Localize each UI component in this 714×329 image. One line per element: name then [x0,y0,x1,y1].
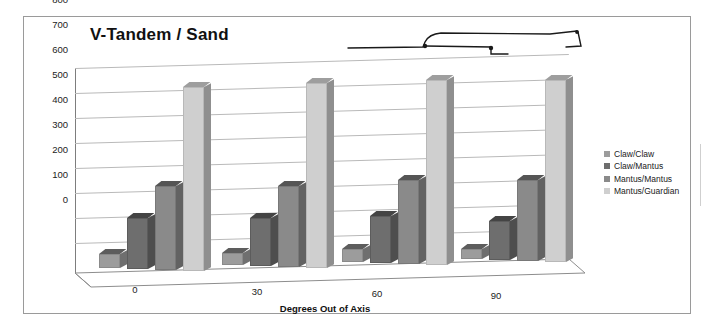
bar-front-face [222,253,243,265]
bar-side-face [299,182,306,267]
chart-legend: Claw/Claw Claw/Mantus Mantus/Mantus Mant… [604,148,694,198]
legend-swatch-icon [604,163,610,169]
bar-claw-claw-60[interactable] [342,249,363,262]
legend-swatch-icon [604,188,610,194]
bar-front-face [517,180,538,261]
bar-front-face [99,254,120,268]
bar-claw-claw-30[interactable] [222,253,243,265]
bar-side-face [391,212,398,263]
x-tick-0: 0 [115,284,155,295]
bar-front-face [398,180,419,264]
bar-side-face [327,79,334,268]
bar-side-face [176,182,183,270]
bar-front-face [489,221,510,260]
bar-front-face [426,80,447,265]
bar-side-face [148,214,155,269]
bar-front-face [370,216,391,263]
y-tick-400: 400 [34,95,68,105]
x-tick-60: 60 [357,288,397,299]
bar-side-face [204,83,211,271]
legend-swatch-icon [604,151,610,157]
bar-side-face [447,76,454,265]
bar-front-face [250,218,271,266]
bar-mantus-mantus-60[interactable] [398,180,419,264]
x-tick-30: 30 [237,286,277,297]
bar-claw-mantus-90[interactable] [489,221,510,260]
legend-label-mantus-mantus: Mantus/Mantus [614,174,672,184]
bar-front-face [545,80,566,262]
chart-screenshot: V-Tandem / Sand Holding After Initial Dr… [0,0,714,329]
bar-side-face [510,217,517,260]
plot-area [75,68,585,273]
bar-mantus-guardian-0[interactable] [183,87,204,271]
y-tick-200: 200 [34,145,68,155]
y-tick-300: 300 [34,120,68,130]
bar-front-face [278,186,299,267]
y-tick-0: 0 [34,195,68,205]
bar-claw-mantus-0[interactable] [127,218,148,269]
y-axis-ticks: 800 700 600 500 400 300 200 100 0 [32,0,68,205]
bar-front-face [127,218,148,269]
y-tick-100: 100 [34,170,68,180]
bar-front-face [461,249,482,259]
bar-mantus-guardian-90[interactable] [545,80,566,262]
x-axis-title: Degrees Out of Axis [225,303,425,314]
y-tick-700: 700 [34,20,68,30]
legend-divider [700,144,701,206]
legend-item-mantus-guardian[interactable]: Mantus/Guardian [604,186,694,198]
legend-item-claw-claw[interactable]: Claw/Claw [604,148,694,160]
bar-front-face [342,249,363,262]
bar-front-face [155,186,176,270]
legend-label-claw-mantus: Claw/Mantus [614,161,663,171]
legend-item-claw-mantus[interactable]: Claw/Mantus [604,161,694,173]
bar-mantus-mantus-30[interactable] [278,186,299,267]
bar-front-face [183,87,204,271]
bar-side-face [419,176,426,264]
x-tick-90: 90 [476,290,516,301]
y-tick-500: 500 [34,70,68,80]
legend-swatch-icon [604,176,610,182]
bar-front-face [306,83,327,268]
legend-label-claw-claw: Claw/Claw [614,149,654,159]
bar-mantus-guardian-30[interactable] [306,83,327,268]
legend-item-mantus-mantus[interactable]: Mantus/Mantus [604,173,694,185]
y-tick-600: 600 [34,45,68,55]
bar-side-face [566,76,573,262]
bar-mantus-mantus-0[interactable] [155,186,176,270]
bar-claw-claw-0[interactable] [99,254,120,268]
bar-mantus-guardian-60[interactable] [426,80,447,265]
y-tick-800: 800 [34,0,68,5]
bar-claw-mantus-60[interactable] [370,216,391,263]
bar-side-face [538,176,545,261]
legend-label-mantus-guardian: Mantus/Guardian [614,186,679,196]
bar-claw-claw-90[interactable] [461,249,482,259]
bar-mantus-mantus-90[interactable] [517,180,538,261]
bar-side-face [271,214,278,266]
bar-claw-mantus-30[interactable] [250,218,271,266]
chart-title: V-Tandem / Sand [90,25,229,45]
